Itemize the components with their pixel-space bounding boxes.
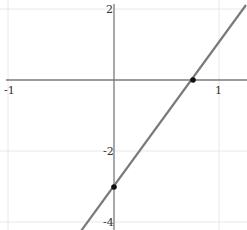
y-tick-label-neg4: -4 xyxy=(103,216,114,229)
x-tick-label-pos1: 1 xyxy=(215,84,222,97)
graph-canvas: -1 1 2 -2 -4 xyxy=(0,0,247,230)
y-tick-label-neg2: -2 xyxy=(103,145,114,158)
grid xyxy=(0,0,247,230)
y-intercept-point xyxy=(111,184,117,190)
y-tick-label-pos2: 2 xyxy=(106,3,113,16)
x-intercept-point xyxy=(190,77,196,83)
axes xyxy=(6,4,247,230)
function-line xyxy=(81,5,246,230)
tick-labels: -1 1 2 -2 -4 xyxy=(4,3,222,229)
x-tick-label-neg1: -1 xyxy=(4,84,15,97)
